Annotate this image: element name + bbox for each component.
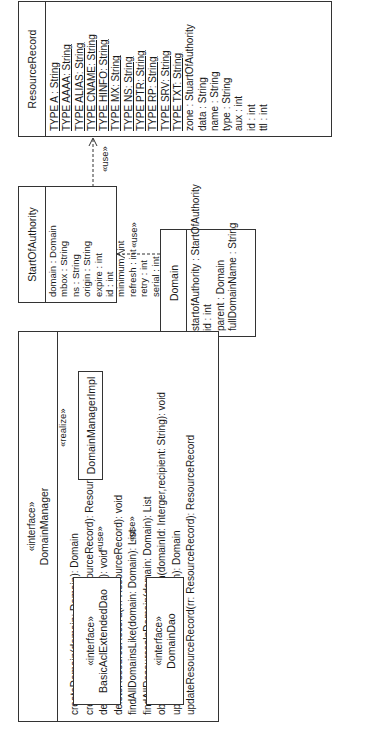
realize-arrow-line <box>0 0 372 732</box>
uml-class-diagram: ResourceRecord TYPE A : String TYPE AAAA… <box>0 0 372 732</box>
